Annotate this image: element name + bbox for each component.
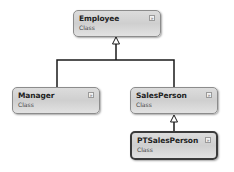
class-shape-salesperson[interactable]: SalesPerson Class » bbox=[130, 87, 218, 114]
expand-toggle-icon[interactable]: » bbox=[88, 92, 94, 98]
connector-salesperson-employee[interactable] bbox=[116, 60, 174, 87]
class-kind: Class bbox=[136, 101, 152, 108]
class-diagram-canvas: Employee Class » Manager Class » SalesPe… bbox=[0, 0, 234, 172]
class-name: SalesPerson bbox=[136, 91, 187, 100]
expand-toggle-icon[interactable]: » bbox=[149, 15, 155, 21]
class-name: Employee bbox=[79, 14, 119, 23]
class-kind: Class bbox=[18, 101, 34, 108]
class-shape-ptsalesperson[interactable]: PTSalesPerson Class » bbox=[130, 131, 218, 160]
class-kind: Class bbox=[79, 24, 95, 31]
class-shape-employee[interactable]: Employee Class » bbox=[73, 10, 161, 37]
expand-toggle-icon[interactable]: » bbox=[206, 92, 212, 98]
class-kind: Class bbox=[137, 146, 153, 153]
connector-manager-employee[interactable] bbox=[57, 60, 116, 87]
inheritance-arrow-employee bbox=[113, 37, 120, 44]
expand-toggle-icon[interactable]: » bbox=[205, 137, 211, 143]
class-shape-manager[interactable]: Manager Class » bbox=[12, 87, 100, 114]
inheritance-arrow-salesperson bbox=[171, 115, 178, 122]
class-name: Manager bbox=[18, 91, 54, 100]
class-name: PTSalesPerson bbox=[137, 136, 198, 145]
